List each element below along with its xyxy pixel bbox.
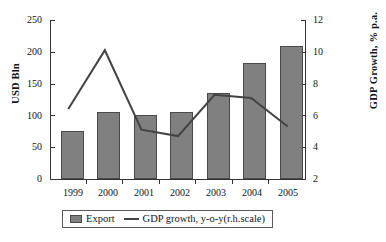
x-tick-mark [232, 180, 233, 184]
x-tick-label: 2003 [199, 187, 233, 198]
bar-swatch-icon [70, 215, 82, 223]
x-tick-label: 1999 [56, 187, 90, 198]
plot-area [50, 20, 306, 179]
x-tick-label: 2004 [235, 187, 269, 198]
right-tick-label: 12 [313, 14, 323, 25]
right-axis-title: GDP Growth, % p.a. [368, 0, 379, 131]
x-tick-mark [86, 180, 87, 184]
x-tick-mark [159, 180, 160, 184]
right-tick-label: 4 [313, 141, 318, 152]
legend-item-gdp-growth: GDP growth, y-o-y(r.h.scale) [124, 213, 265, 224]
left-tick-label: 100 [16, 110, 42, 121]
right-tick-label: 2 [313, 173, 318, 184]
legend-label: GDP growth, y-o-y(r.h.scale) [143, 213, 265, 224]
right-tick-label: 6 [313, 110, 318, 121]
x-tick-mark [122, 180, 123, 184]
left-tick-label: 250 [16, 14, 42, 25]
right-tick-label: 10 [313, 46, 323, 57]
x-tick-mark [195, 180, 196, 184]
chart-legend: Export GDP growth, y-o-y(r.h.scale) [62, 210, 273, 228]
x-tick-label: 2005 [271, 187, 305, 198]
left-tick-label: 0 [16, 173, 42, 184]
right-tick-label: 8 [313, 78, 318, 89]
gdp-growth-line [50, 20, 306, 180]
chart-figure: USD Bln GDP Growth, % p.a. 250 200 150 1… [0, 0, 386, 242]
x-tick-mark [268, 180, 269, 184]
x-tick-label: 2001 [127, 187, 161, 198]
left-tick-label: 50 [16, 141, 42, 152]
left-tick-label: 150 [16, 78, 42, 89]
legend-item-export: Export [70, 213, 115, 224]
legend-label: Export [86, 213, 115, 224]
line-swatch-icon [124, 218, 139, 220]
x-tick-label: 2002 [163, 187, 197, 198]
x-tick-label: 2000 [91, 187, 125, 198]
left-tick-label: 200 [16, 46, 42, 57]
